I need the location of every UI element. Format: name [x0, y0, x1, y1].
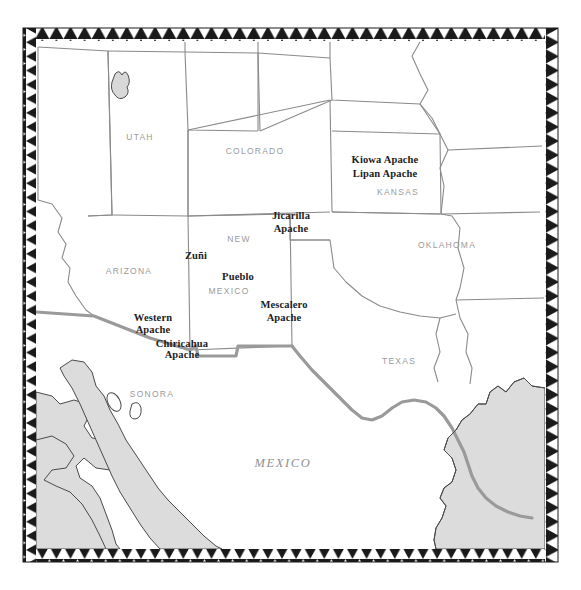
- map-label-layer: UTAHCOLORADOKANSASOKLAHOMAARIZONANEWMEXI…: [0, 0, 581, 590]
- tribe-label: Apache: [274, 223, 309, 235]
- tribe-label: Western: [134, 312, 172, 324]
- tribe-label: Apache: [267, 312, 302, 324]
- tribe-label: Lipan Apache: [353, 168, 418, 180]
- state-label: OKLAHOMA: [418, 241, 476, 251]
- tribe-label: Apache: [165, 349, 200, 361]
- state-label: ARIZONA: [106, 267, 153, 277]
- state-label: COLORADO: [226, 147, 285, 157]
- tribe-label: Jicarilla: [272, 210, 310, 222]
- tribe-label: Pueblo: [222, 271, 254, 283]
- state-label: SONORA: [130, 390, 174, 400]
- state-label: NEW: [227, 235, 251, 245]
- apache-territory-map: UTAHCOLORADOKANSASOKLAHOMAARIZONANEWMEXI…: [0, 0, 581, 590]
- country-label: MEXICO: [255, 456, 312, 470]
- tribe-label: Apache: [136, 324, 171, 336]
- tribe-label: Kiowa Apache: [352, 154, 419, 166]
- tribe-label: Mescalero: [260, 299, 307, 311]
- tribe-label: Zuñi: [185, 250, 207, 262]
- state-label: TEXAS: [382, 357, 416, 367]
- state-label: MEXICO: [208, 287, 249, 297]
- state-label: KANSAS: [377, 188, 419, 198]
- tribe-label: Chiricahua: [156, 338, 208, 350]
- state-label: UTAH: [126, 133, 154, 143]
